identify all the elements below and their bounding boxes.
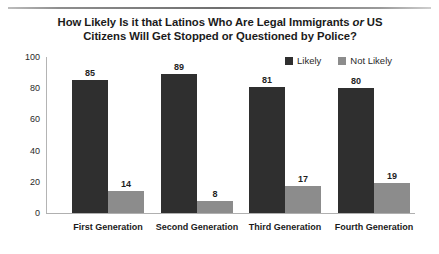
chart-title: How Likely Is it that Latinos Who Are Le… (40, 16, 400, 43)
bar-group: 8514First Generation (72, 57, 144, 213)
bar-value-label: 81 (249, 75, 285, 85)
chart-title-line1-post: US (364, 16, 383, 28)
y-tick-label: 100 (25, 52, 40, 62)
bar-likely[interactable]: 89 (161, 74, 197, 213)
bar-not-likely[interactable]: 8 (197, 201, 233, 213)
bar-value-label: 89 (161, 62, 197, 72)
plot-area: 020406080100 8514First Generation898Seco… (46, 57, 415, 214)
y-tick-label: 40 (30, 146, 40, 156)
bar-likely[interactable]: 80 (338, 88, 374, 213)
bar-value-label: 8 (197, 189, 233, 199)
x-category-label: Fourth Generation (324, 222, 424, 232)
y-tick-label: 20 (30, 177, 40, 187)
bar-not-likely[interactable]: 17 (285, 186, 321, 213)
bar-value-label: 14 (108, 179, 144, 189)
bar-likely[interactable]: 85 (72, 80, 108, 213)
bar-value-label: 19 (374, 171, 410, 181)
bar-value-label: 80 (338, 76, 374, 86)
chart-title-line1-italic: or (353, 16, 364, 28)
bar-group: 8019Fourth Generation (338, 57, 410, 213)
bar-not-likely[interactable]: 19 (374, 183, 410, 213)
bar-value-label: 17 (285, 174, 321, 184)
y-tick-label: 60 (30, 114, 40, 124)
x-category-label: Second Generation (147, 222, 247, 232)
bar-not-likely[interactable]: 14 (108, 191, 144, 213)
header-divider (8, 7, 431, 9)
chart-title-line2: Citizens Will Get Stopped or Questioned … (40, 30, 400, 44)
chart-title-line1-pre: How Likely Is it that Latinos Who Are Le… (58, 16, 353, 28)
bar-group: 898Second Generation (161, 57, 233, 213)
y-tick-label: 80 (30, 83, 40, 93)
x-category-label: First Generation (58, 222, 158, 232)
bar-likely[interactable]: 81 (249, 87, 285, 213)
bar-value-label: 85 (72, 68, 108, 78)
y-axis-line (46, 57, 47, 214)
x-category-label: Third Generation (235, 222, 335, 232)
bar-group: 8117Third Generation (249, 57, 321, 213)
y-tick-label: 0 (35, 208, 40, 218)
bar-chart-figure: How Likely Is it that Latinos Who Are Le… (0, 0, 439, 254)
x-axis-line (46, 213, 415, 214)
